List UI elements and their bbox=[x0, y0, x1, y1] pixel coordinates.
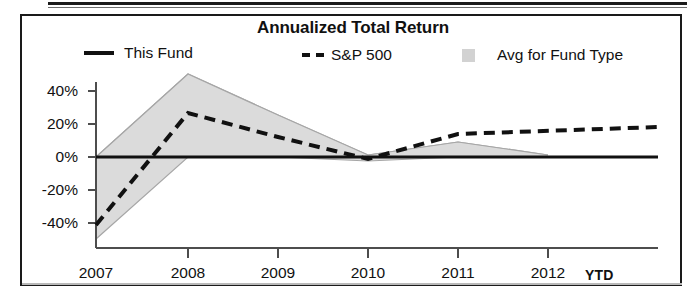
y-tick-label-40: 40% bbox=[16, 82, 78, 100]
panel-bottom-shadow bbox=[22, 283, 682, 285]
top-rule-secondary bbox=[48, 7, 687, 8]
plot-area: 40% 20% 0% -20% -40% 2007 2008 2009 2010… bbox=[22, 16, 684, 288]
chart-svg bbox=[22, 16, 684, 288]
x-tick-label-2010: 2010 bbox=[335, 264, 401, 282]
y-tick-label-20: 20% bbox=[16, 115, 78, 133]
x-tick-label-2009: 2009 bbox=[245, 264, 311, 282]
x-tick-label-2007: 2007 bbox=[63, 264, 129, 282]
y-tick-label-neg40: -40% bbox=[16, 214, 78, 232]
y-tick-label-neg20: -20% bbox=[16, 181, 78, 199]
x-axis-ytd-label: YTD bbox=[585, 267, 614, 283]
y-tick-label-0: 0% bbox=[16, 148, 78, 166]
top-rule bbox=[48, 2, 687, 5]
x-tick-label-2012: 2012 bbox=[515, 264, 581, 282]
chart-panel: Annualized Total Return This Fund S&P 50… bbox=[20, 14, 682, 286]
x-tick-label-2011: 2011 bbox=[425, 264, 491, 282]
x-tick-label-2008: 2008 bbox=[155, 264, 221, 282]
